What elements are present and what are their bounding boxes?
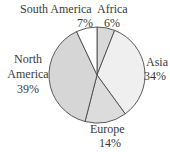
label-north-america-pct: 39% bbox=[2, 83, 54, 96]
label-north-america: North America 39% bbox=[2, 53, 54, 96]
label-south-america-pct: 7% bbox=[77, 17, 93, 30]
label-south-america-name: South America bbox=[20, 2, 92, 16]
label-south-america: South America bbox=[20, 3, 92, 16]
label-africa: Africa bbox=[97, 3, 128, 16]
label-asia: Asia bbox=[146, 56, 168, 69]
label-europe: Europe bbox=[90, 123, 125, 136]
label-north-america-line2: America bbox=[2, 68, 54, 81]
label-north-america-line1: North bbox=[2, 53, 54, 66]
label-europe-pct: 14% bbox=[99, 137, 121, 150]
label-africa-pct: 6% bbox=[104, 17, 120, 30]
label-asia-pct: 34% bbox=[144, 70, 166, 83]
